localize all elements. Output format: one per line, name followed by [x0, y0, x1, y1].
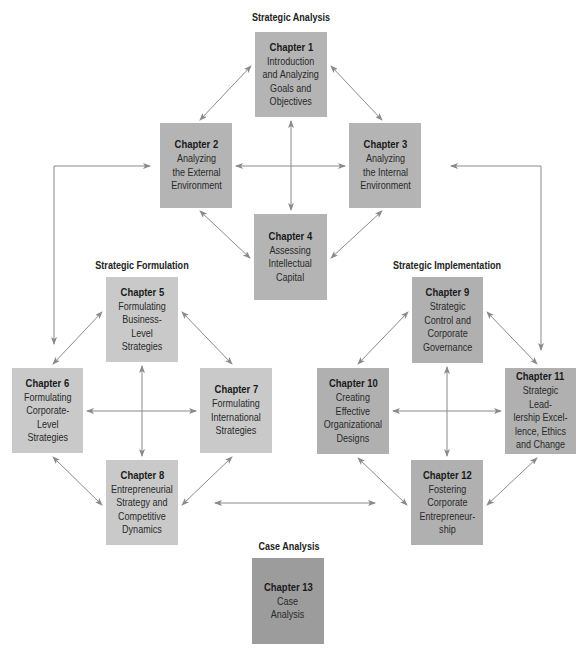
chapter-10-box: Chapter 10 Creating Effective Organizati…: [317, 368, 389, 454]
group-title-strategic-implementation: Strategic Implementation: [387, 259, 507, 271]
chapter-13-box: Chapter 13 Case Analysis: [252, 558, 324, 644]
group-title-case-analysis: Case Analysis: [246, 540, 332, 552]
chapter-12-title: Chapter 12: [423, 469, 472, 481]
chapter-5-box: Chapter 5 Formulating Business-Level Str…: [106, 277, 178, 362]
chapter-9-box: Chapter 9 Strategic Control and Corporat…: [412, 277, 483, 363]
chapter-3-box: Chapter 3 Analyzing the Internal Environ…: [349, 123, 421, 208]
chapter-2-subtitle: Analyzing the External Environment: [171, 152, 222, 193]
chapter-7-subtitle: Formulating International Strategies: [211, 397, 261, 438]
chapter-7-title: Chapter 7: [214, 383, 258, 395]
chapter-11-title: Chapter 11: [516, 370, 564, 382]
group-title-strategic-analysis: Strategic Analysis: [239, 11, 342, 23]
chapter-10-title: Chapter 10: [329, 377, 378, 389]
chapter-10-subtitle: Creating Effective Organizational Design…: [324, 391, 382, 445]
chapter-12-subtitle: Fostering Corporate Entrepreneur- ship: [419, 483, 475, 537]
chapter-8-title: Chapter 8: [120, 469, 164, 481]
chapter-7-box: Chapter 7 Formulating International Stra…: [200, 368, 272, 453]
chapter-11-subtitle: Strategic Lead- lership Excel- lence, Et…: [512, 384, 570, 452]
chapter-4-subtitle: Assessing Intellectual Capital: [269, 244, 312, 285]
chapter-13-title: Chapter 13: [264, 581, 313, 593]
chapter-2-box: Chapter 2 Analyzing the External Environ…: [160, 123, 232, 208]
chapter-5-subtitle: Formulating Business-Level Strategies: [113, 300, 171, 354]
chapter-3-subtitle: Analyzing the Internal Environment: [360, 152, 411, 193]
chapter-8-subtitle: Entrepreneurial Strategy and Competitive…: [111, 483, 173, 537]
chapter-8-box: Chapter 8 Entrepreneurial Strategy and C…: [106, 460, 178, 545]
chapter-6-title: Chapter 6: [26, 377, 70, 389]
chapter-2-title: Chapter 2: [174, 138, 218, 150]
chapter-4-title: Chapter 4: [269, 230, 313, 242]
chapter-9-title: Chapter 9: [426, 286, 470, 298]
chapter-9-subtitle: Strategic Control and Corporate Governan…: [423, 300, 472, 354]
chapter-1-box: Chapter 1 Introduction and Analyzing Goa…: [255, 32, 327, 117]
chapter-13-subtitle: Case Analysis: [271, 595, 305, 622]
chapter-3-title: Chapter 3: [363, 138, 407, 150]
chapter-1-subtitle: Introduction and Analyzing Goals and Obj…: [263, 55, 319, 109]
chapter-6-box: Chapter 6 Formulating Corporate- Level S…: [12, 368, 83, 453]
chapter-11-box: Chapter 11 Strategic Lead- lership Excel…: [505, 368, 576, 454]
chapter-5-title: Chapter 5: [120, 286, 164, 298]
chapter-12-box: Chapter 12 Fostering Corporate Entrepren…: [411, 460, 483, 545]
chapter-6-subtitle: Formulating Corporate- Level Strategies: [24, 391, 72, 445]
chapter-4-box: Chapter 4 Assessing Intellectual Capital: [254, 214, 327, 300]
chapter-1-title: Chapter 1: [269, 41, 313, 53]
group-title-strategic-formulation: Strategic Formulation: [86, 259, 198, 271]
